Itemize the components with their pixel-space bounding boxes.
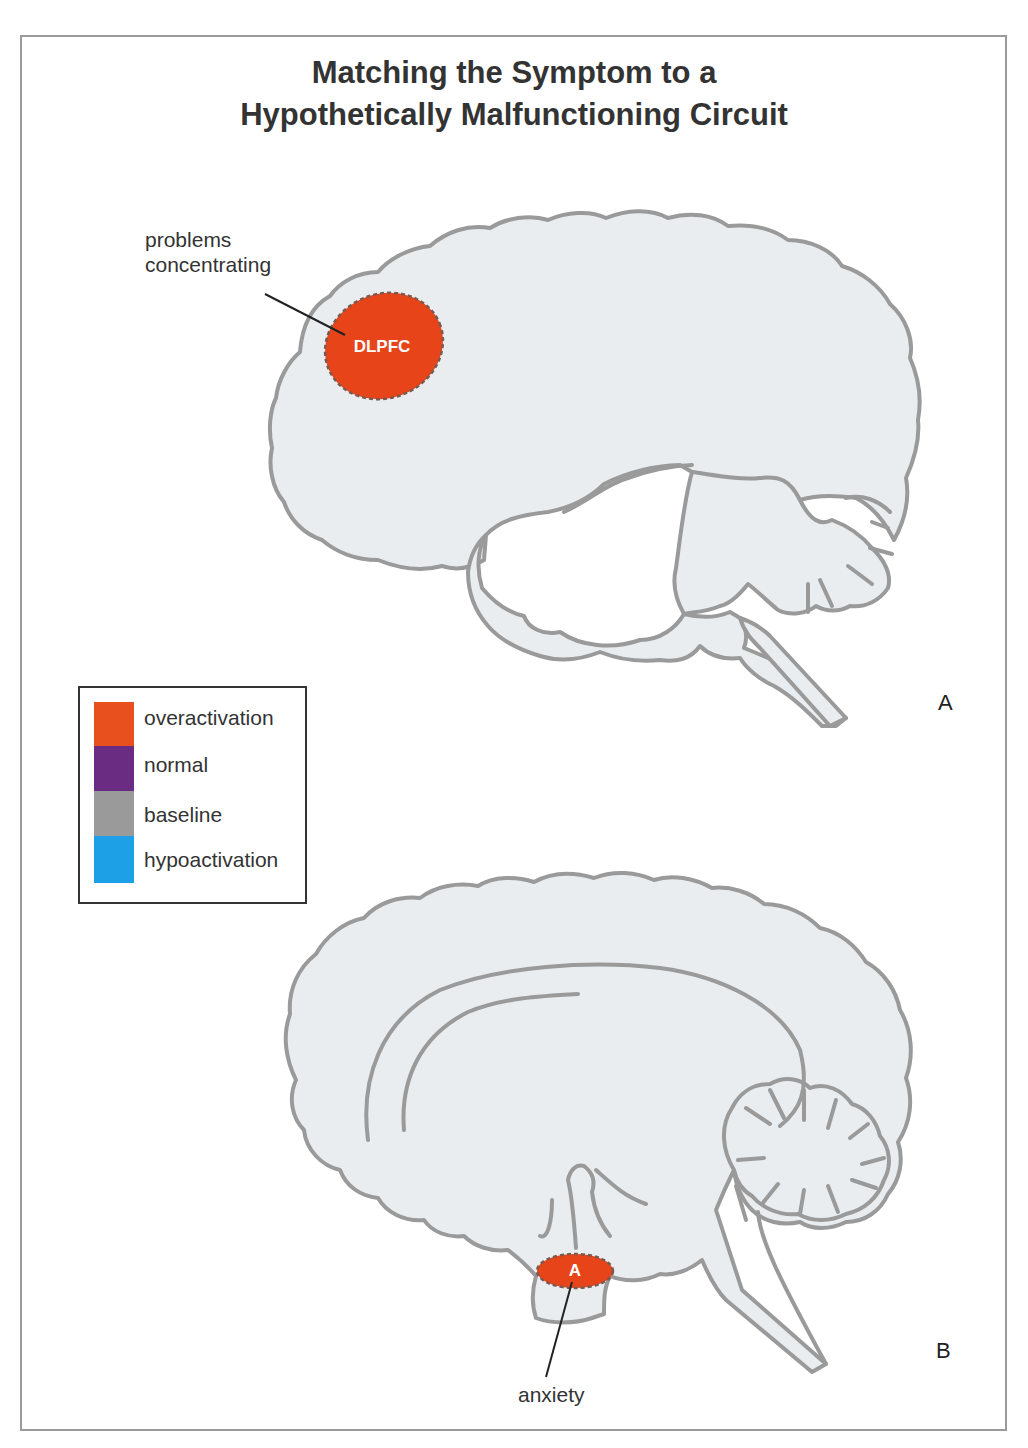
brain-lateral	[270, 211, 920, 726]
amygdala-label: A	[555, 1261, 595, 1281]
panel-letter-b: B	[936, 1338, 951, 1364]
panel-letter-a: A	[938, 690, 953, 716]
legend: overactivation normal baseline hypoactiv…	[78, 686, 307, 904]
dlpfc-label: DLPFC	[338, 337, 426, 357]
legend-swatch-normal	[94, 746, 134, 793]
legend-label-hypoactivation: hypoactivation	[144, 848, 278, 872]
brain-medial	[286, 873, 911, 1372]
legend-swatch-baseline	[94, 791, 134, 838]
legend-label-overactivation: overactivation	[144, 706, 274, 730]
legend-label-normal: normal	[144, 753, 208, 777]
legend-label-baseline: baseline	[144, 803, 222, 827]
annotation-line-1: problems	[145, 227, 271, 252]
annotation-problems-concentrating: problems concentrating	[145, 227, 271, 277]
legend-swatch-overactivation	[94, 702, 134, 749]
legend-swatch-hypoactivation	[94, 836, 134, 883]
annotation-anxiety: anxiety	[518, 1382, 585, 1407]
annotation-line-2: concentrating	[145, 252, 271, 277]
